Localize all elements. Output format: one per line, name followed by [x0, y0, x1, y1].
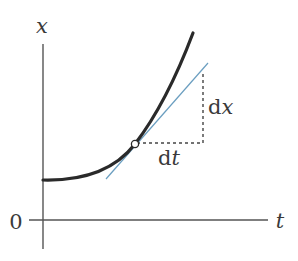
- dx-label-var: x: [221, 95, 233, 119]
- dt-label-d: d: [158, 146, 171, 170]
- tangent-point: [131, 140, 138, 147]
- y-axis-label: x: [36, 14, 48, 38]
- tangent-line: [106, 63, 208, 179]
- derivative-diagram: x t 0 dx dt: [0, 0, 298, 261]
- dx-label-d: d: [208, 95, 221, 119]
- dx-label: dx: [208, 95, 233, 119]
- x-axis-label: t: [276, 209, 285, 233]
- origin-label: 0: [9, 210, 22, 234]
- dt-label: dt: [158, 146, 180, 170]
- dt-label-var: t: [171, 146, 180, 170]
